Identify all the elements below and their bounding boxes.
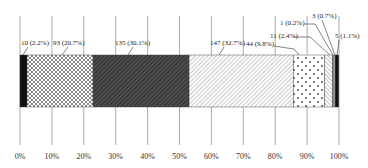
x-tick-label: 0% (15, 152, 26, 161)
x-tick-label: 60% (204, 152, 219, 161)
segment-label: 1 (0.2%) (280, 19, 305, 27)
leader-line (304, 24, 333, 55)
x-tick-label: 20% (76, 152, 91, 161)
segment-label: 5 (1.1%) (335, 32, 360, 40)
bar-segment (293, 55, 324, 107)
x-axis-tick-labels: 0%10%20%30%40%50%60%70%80%90%100% (15, 152, 349, 161)
segment-label: 44 (9.8%) (246, 40, 275, 48)
x-tick-label: 70% (236, 152, 251, 161)
bar-segment (333, 55, 335, 107)
leader-line (274, 46, 299, 55)
bar-segments (20, 55, 339, 107)
segment-label: 11 (2.4%) (270, 32, 298, 40)
bar-segment (93, 55, 189, 107)
x-tick-label: 80% (268, 152, 283, 161)
leader-line (23, 47, 28, 55)
x-tick-label: 40% (140, 152, 155, 161)
x-tick-label: 100% (330, 152, 349, 161)
segment-label: 93 (20.7%) (53, 39, 85, 47)
segment-label: 135 (30.1%) (115, 39, 151, 47)
leader-line (219, 47, 224, 55)
x-tick-label: 30% (108, 152, 123, 161)
bar-segment (335, 55, 339, 107)
bar-segment (189, 55, 293, 107)
x-tick-label: 50% (172, 152, 187, 161)
leader-line (128, 47, 133, 55)
segment-label: 3 (0.7%) (312, 12, 337, 20)
segment-label: 10 (2.2%) (21, 39, 50, 47)
segment-label: 147 (32.7%) (210, 39, 246, 47)
bar-segment (27, 55, 93, 107)
stacked-percentage-bar-chart: 10 (2.2%)93 (20.7%)135 (30.1%)147 (32.7%… (0, 0, 368, 168)
leader-line (62, 47, 68, 55)
x-tick-label: 10% (45, 152, 60, 161)
bar-segment (325, 55, 333, 107)
bar-segment (20, 55, 27, 107)
chart-canvas: 10 (2.2%)93 (20.7%)135 (30.1%)147 (32.7%… (0, 0, 368, 168)
leader-line (294, 37, 330, 55)
x-tick-label: 90% (300, 152, 315, 161)
segment-labels: 10 (2.2%)93 (20.7%)135 (30.1%)147 (32.7%… (21, 12, 360, 55)
